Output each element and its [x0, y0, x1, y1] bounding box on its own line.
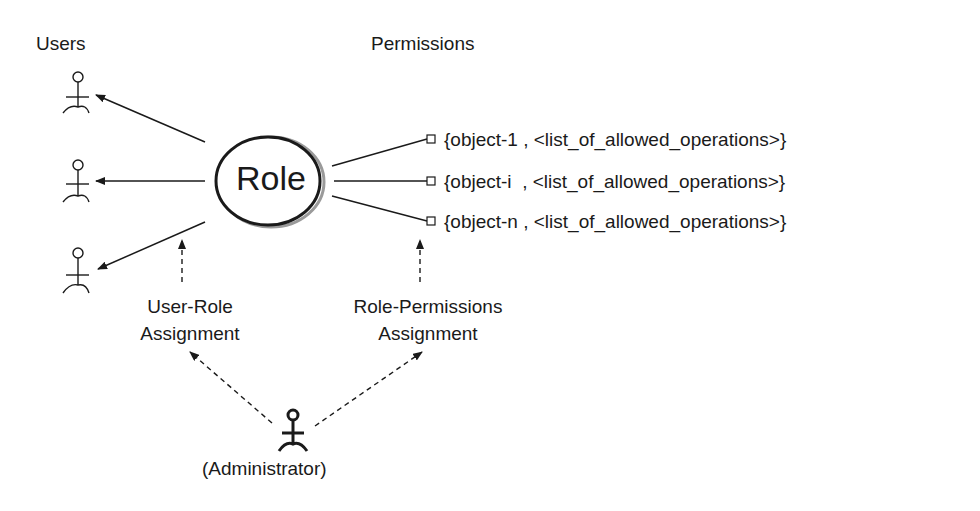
administrator-label: (Administrator) — [202, 459, 327, 478]
user-role-line2: Assignment — [112, 320, 268, 347]
role-permissions-line2: Assignment — [318, 320, 538, 347]
user-role-assignment-label: User-Role Assignment — [112, 293, 268, 347]
permission-1-port-icon — [427, 135, 435, 143]
permission-i-port-icon — [427, 177, 435, 185]
rbac-diagram — [0, 0, 980, 511]
user-actor-icon-3 — [63, 248, 89, 293]
role-to-user-1-arrow — [96, 95, 205, 142]
users-header: Users — [36, 34, 86, 53]
role-to-user-3-arrow — [98, 222, 205, 269]
permission-object-n: {object-n , <list_of_allowed_operations>… — [444, 212, 786, 231]
admin-to-role-permissions-arrow — [315, 352, 422, 426]
permission-object-1: {object-1 , <list_of_allowed_operations>… — [444, 130, 786, 149]
role-permissions-assignment-label: Role-Permissions Assignment — [318, 293, 538, 347]
role-permissions-line1: Role-Permissions — [318, 293, 538, 320]
permission-n-port-icon — [427, 217, 435, 225]
administrator-actor-icon — [279, 410, 307, 451]
admin-to-user-role-arrow — [190, 352, 272, 423]
user-role-line1: User-Role — [112, 293, 268, 320]
role-to-permission-1-line — [332, 139, 427, 166]
role-to-permission-n-line — [332, 196, 427, 221]
permissions-header: Permissions — [371, 34, 474, 53]
user-actor-icon-2 — [63, 160, 89, 202]
permission-object-i: {object-i , <list_of_allowed_operations>… — [444, 172, 785, 191]
user-actor-icon-1 — [63, 72, 89, 113]
role-label: Role — [236, 161, 306, 195]
